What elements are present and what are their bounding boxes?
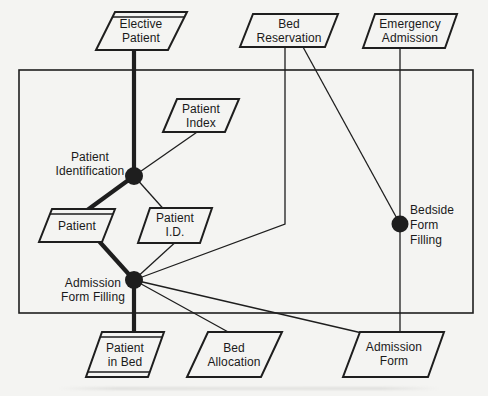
edge-patient-index-to-patient-identification <box>134 130 200 176</box>
edge-bed-reservation-to-admission-form-filling <box>134 47 285 280</box>
label-emergency-admission: Emergency Admission <box>370 17 450 45</box>
label-bedside-form-filling: Bedside Form Filling <box>410 203 480 248</box>
diagram-canvas: Elective Patient Bed Reservation Emergen… <box>0 0 488 396</box>
edge-admission-form-filling-to-bed-allocation <box>134 280 230 333</box>
edge-patient-id-to-admission-form-filling <box>134 238 180 280</box>
edge-bed-reservation-to-bedside-form-filling <box>303 47 400 224</box>
label-bed-reservation: Bed Reservation <box>249 17 329 45</box>
label-admission-form: Admission Form <box>354 340 434 368</box>
edge-admission-form-filling-to-admission-form <box>134 280 362 333</box>
label-patient-identification: Patient Identification <box>40 150 140 178</box>
label-patient-index: Patient Index <box>161 102 241 130</box>
label-patient-in-bed: Patient in Bed <box>85 341 165 369</box>
label-elective-patient: Elective Patient <box>101 17 181 45</box>
process-bedside-form-filling-circle <box>392 216 409 233</box>
label-admission-form-filling: Admission Form Filling <box>43 276 143 304</box>
scan-artifact <box>58 387 440 390</box>
label-patient-id: Patient I.D. <box>135 211 215 239</box>
diagram-drawing <box>0 0 488 396</box>
label-patient: Patient <box>37 219 117 233</box>
label-bed-allocation: Bed Allocation <box>194 341 274 369</box>
